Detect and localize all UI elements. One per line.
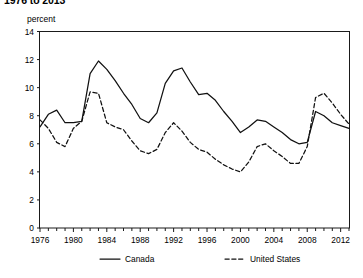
y-axis-ticks: 02468101214: [25, 27, 40, 234]
data-series-group: [40, 61, 349, 172]
y-tick-label: 6: [29, 139, 34, 149]
unemployment-rate-chart: 1976 to 2013 percent 02468101214 1976198…: [0, 0, 363, 278]
x-tick-label: 2004: [265, 235, 284, 245]
y-tick-label: 4: [29, 167, 34, 177]
x-tick-label: 2000: [231, 235, 250, 245]
x-tick-label: 1988: [131, 235, 150, 245]
y-tick-label: 12: [25, 55, 35, 65]
x-tick-label: 1984: [97, 235, 116, 245]
y-tick-label: 0: [29, 223, 34, 233]
chart-legend: CanadaUnited States: [100, 254, 300, 264]
y-tick-label: 10: [25, 83, 35, 93]
plot-frame: [40, 32, 350, 229]
series-line-united-states: [40, 92, 349, 172]
y-tick-label: 2: [29, 195, 34, 205]
x-tick-label: 1996: [198, 235, 217, 245]
y-tick-label: 8: [29, 111, 34, 121]
x-tick-label: 1992: [164, 235, 183, 245]
legend-label-canada: Canada: [125, 254, 155, 264]
x-tick-label: 1980: [64, 235, 83, 245]
legend-label-united-states: United States: [250, 254, 300, 264]
y-tick-label: 14: [25, 27, 35, 37]
x-tick-label: 1976: [31, 235, 50, 245]
x-tick-label: 2012: [331, 235, 350, 245]
series-line-canada: [40, 61, 349, 144]
plot-area: 02468101214 1976198019841988199219962000…: [0, 0, 363, 278]
x-tick-label: 2008: [298, 235, 317, 245]
x-axis-ticks: 1976198019841988199219962000200420082012: [31, 228, 351, 245]
